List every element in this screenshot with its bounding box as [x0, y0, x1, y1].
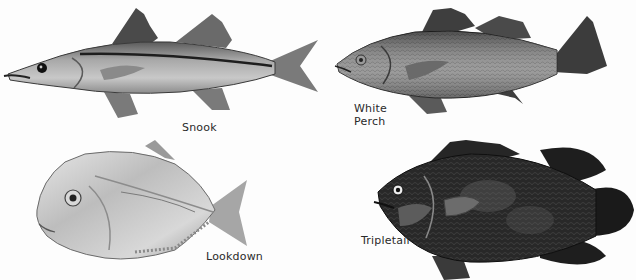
- fish-illustration-plate: Snook White Perch: [0, 0, 636, 280]
- tripletail-illustration: [370, 140, 636, 280]
- snook-illustration: [0, 0, 325, 120]
- caption-lookdown: Lookdown: [206, 250, 263, 263]
- caption-snook: Snook: [182, 121, 217, 134]
- caption-white-perch: White Perch: [354, 102, 387, 128]
- caption-tripletail: Tripletail: [361, 234, 410, 247]
